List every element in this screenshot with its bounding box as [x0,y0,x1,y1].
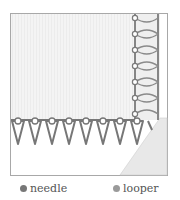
needle-dot-icon [20,185,27,192]
looper-dot-icon [113,185,120,192]
fabric [11,14,136,120]
legend-item-looper: looper [113,182,159,195]
legend-label: needle [30,182,67,195]
seam-diagram [0,0,180,200]
legend-label: looper [123,182,159,195]
legend-item-needle: needle [20,182,67,195]
legend: needle looper [0,182,180,198]
